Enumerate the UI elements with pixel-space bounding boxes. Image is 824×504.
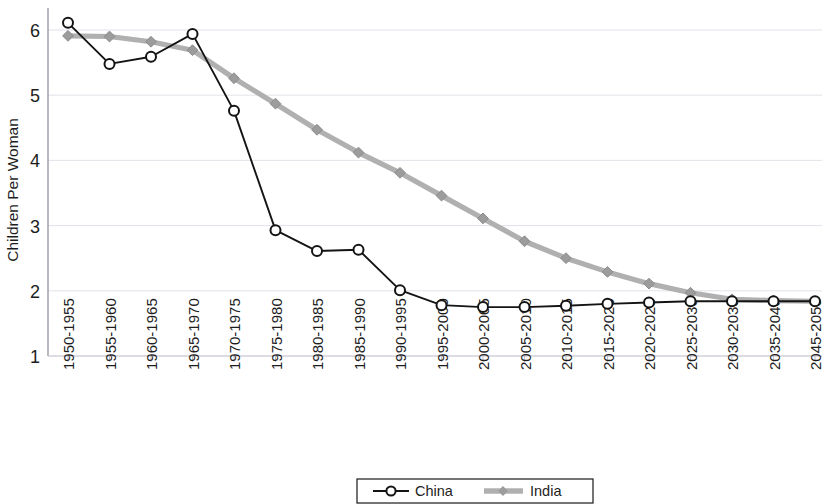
x-tick-label: 2030-2035 — [724, 298, 741, 370]
x-tick-label: 1970-1975 — [226, 298, 243, 370]
x-tick-label: 1990-1995 — [392, 298, 409, 370]
chart-background — [0, 0, 824, 504]
x-tick-label: 1975-1980 — [268, 298, 285, 370]
data-point — [271, 225, 281, 235]
data-point — [561, 301, 571, 311]
y-tick-label: 5 — [30, 86, 40, 106]
y-tick-label: 4 — [30, 151, 40, 171]
chart-canvas: Children Per Woman 123456 1950-19551955-… — [0, 0, 824, 504]
x-tick-label: 2020-2025 — [641, 298, 658, 370]
y-tick-label: 1 — [30, 347, 40, 367]
legend-marker-china — [386, 486, 395, 495]
data-point — [478, 302, 488, 312]
x-tick-label: 1965-1970 — [185, 298, 202, 370]
data-point — [105, 59, 115, 69]
y-axis-title: Children Per Woman — [4, 118, 21, 262]
x-tick-label: 2025-2030 — [683, 298, 700, 370]
x-tick-label: 2045-2050 — [807, 298, 824, 370]
data-point — [437, 300, 447, 310]
data-point — [63, 18, 73, 28]
data-point — [354, 245, 364, 255]
x-tick-label: 1950-1955 — [60, 298, 77, 370]
chart-legend: ChinaIndia — [357, 479, 593, 503]
data-point — [146, 52, 156, 62]
data-point — [644, 298, 654, 308]
data-point — [188, 29, 198, 39]
data-point — [727, 296, 737, 306]
x-tick-label: 1955-1960 — [102, 298, 119, 370]
data-point — [769, 296, 779, 306]
fertility-rate-chart: Children Per Woman 123456 1950-19551955-… — [0, 0, 824, 504]
data-point — [686, 296, 696, 306]
legend-label-india: India — [530, 483, 562, 499]
data-point — [810, 296, 820, 306]
y-tick-label: 3 — [30, 217, 40, 237]
data-point — [603, 299, 613, 309]
y-tick-label: 2 — [30, 282, 40, 302]
y-tick-label: 6 — [30, 21, 40, 41]
data-point — [229, 106, 239, 116]
legend-label-china: China — [415, 483, 454, 499]
x-tick-label: 1960-1965 — [143, 298, 160, 370]
data-point — [395, 285, 405, 295]
x-tick-label: 1980-1985 — [309, 298, 326, 370]
x-tick-label: 2035-2040 — [766, 298, 783, 370]
x-tick-label: 1985-1990 — [351, 298, 368, 370]
data-point — [312, 246, 322, 256]
data-point — [520, 302, 530, 312]
